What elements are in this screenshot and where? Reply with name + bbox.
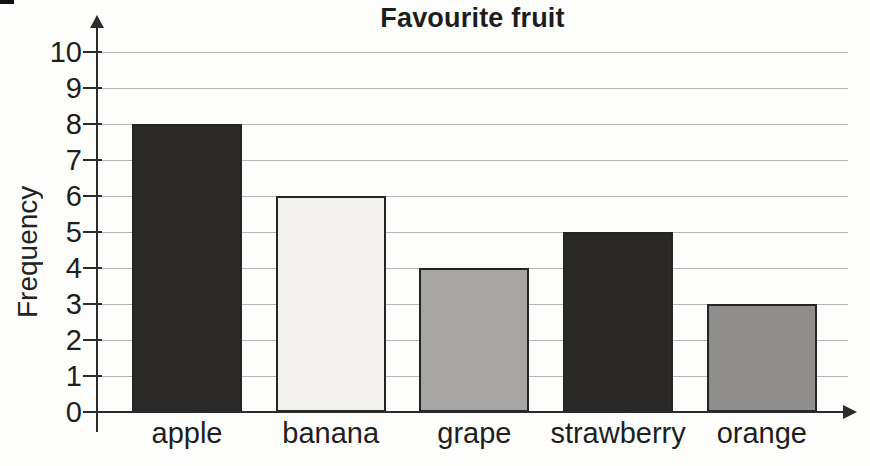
y-tick-label-9: 9 [30,72,82,104]
x-tick-label-banana: banana [251,417,411,450]
y-tick-mark-4 [83,267,102,269]
x-tick-label-apple: apple [107,417,267,450]
y-tick-mark-10 [83,51,102,53]
y-tick-mark-5 [83,231,102,233]
bar-strawberry [563,232,673,412]
bar-apple [132,124,242,412]
y-tick-label-8: 8 [30,108,82,140]
x-tick-label-strawberry: strawberry [538,417,698,450]
y-tick-label-6: 6 [30,180,82,212]
bar-orange [707,304,817,412]
gridline-10 [97,52,848,53]
y-tick-mark-1 [83,375,102,377]
scanned-textbook-chart-page: Favourite fruit Frequency 012345678910 a… [0,0,870,466]
y-tick-label-2: 2 [30,324,82,356]
bar-grape [419,268,529,412]
chart-title: Favourite fruit [97,3,848,34]
y-tick-label-7: 7 [30,144,82,176]
y-tick-mark-3 [83,303,102,305]
x-axis-line [97,411,844,413]
bar-banana [276,196,386,412]
y-tick-mark-9 [83,87,102,89]
y-tick-label-4: 4 [30,252,82,284]
y-tick-label-10: 10 [30,36,82,68]
y-tick-mark-7 [83,159,102,161]
y-tick-label-5: 5 [30,216,82,248]
y-axis-line [96,26,98,432]
y-tick-label-0: 0 [30,396,82,428]
x-tick-label-orange: orange [682,417,842,450]
gridline-9 [97,88,848,89]
y-tick-mark-8 [83,123,102,125]
y-tick-label-3: 3 [30,288,82,320]
y-tick-mark-6 [83,195,102,197]
y-tick-label-1: 1 [30,360,82,392]
x-axis-arrow-icon [843,405,857,419]
favourite-fruit-bar-chart: Favourite fruit Frequency 012345678910 a… [0,0,870,466]
y-tick-mark-2 [83,339,102,341]
x-tick-label-grape: grape [394,417,554,450]
y-axis-arrow-icon [90,15,104,28]
